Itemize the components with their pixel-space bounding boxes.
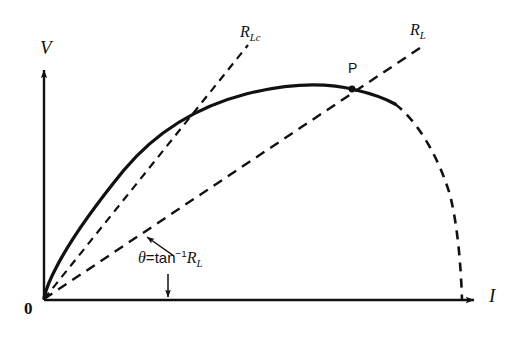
origin-label: 0 [24,300,33,317]
rlc-sub: Lc [250,31,261,43]
theta-symbol: θ [138,249,146,266]
load-line-rl [44,48,420,299]
figure-canvas [0,0,526,345]
inverse-exponent: −1 [175,248,186,259]
y-axis-label: V [40,38,52,57]
axes-group [44,70,474,300]
characteristic-curve-dashed [395,104,462,300]
characteristic-curve-solid [44,85,395,298]
angle-equation-label: θ=tan−1RL [138,249,203,269]
rlc-base: R [240,23,250,40]
rl-sub: L [420,29,426,41]
rl-eq-sub: L [197,257,203,269]
critical-load-line-label: RLc [240,24,261,43]
vi-characteristic-figure: RLc RL V I 0 P θ=tan−1RL [0,0,526,345]
rl-in-equation: RL [187,249,203,266]
tan-function: tan [155,249,176,266]
equals-symbol: = [146,249,155,266]
rl-base: R [410,21,420,38]
operating-point-label: P [348,61,357,75]
operating-point-marker [349,86,356,93]
rl-eq-base: R [187,249,197,266]
x-axis-label: I [489,286,495,305]
load-line-label: RL [410,22,426,41]
